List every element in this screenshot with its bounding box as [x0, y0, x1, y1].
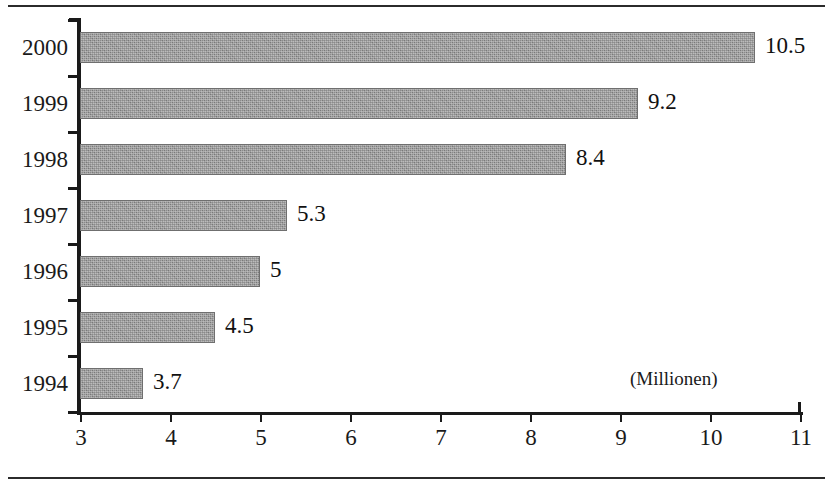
unit-annotation: (Millionen) [630, 368, 718, 390]
bar[interactable] [80, 32, 755, 63]
bar-chart-figure: 34567891011 10.59.28.45.354.53.7 (Millio… [0, 0, 833, 494]
x-axis-tick [440, 413, 442, 422]
bar[interactable] [80, 368, 143, 399]
category-label: 1997 [0, 202, 68, 230]
x-axis-tick-label: 6 [321, 424, 381, 452]
y-axis-tick [68, 19, 78, 22]
bar-row: 8.4 [80, 132, 800, 188]
bar-row: 5.3 [80, 188, 800, 244]
bar-value-label: 8.4 [576, 142, 605, 174]
bottom-rule [8, 477, 825, 479]
x-axis-tick [530, 413, 532, 422]
x-axis-tick [710, 413, 712, 422]
top-rule [8, 5, 825, 7]
bar-row: 9.2 [80, 76, 800, 132]
x-axis-tick-label: 10 [681, 424, 741, 452]
y-axis-tick [68, 243, 78, 246]
y-axis-tick [68, 355, 78, 358]
y-axis-tick [68, 411, 78, 414]
x-axis-tick [80, 413, 82, 422]
y-axis-tick [68, 131, 78, 134]
bar-value-label: 5.3 [297, 198, 326, 230]
bar[interactable] [80, 256, 260, 287]
bar-row: 10.5 [80, 20, 800, 76]
x-axis-tick [170, 413, 172, 422]
bar[interactable] [80, 144, 566, 175]
bar-value-label: 9.2 [648, 86, 677, 118]
plot-area: 34567891011 10.59.28.45.354.53.7 (Millio… [80, 20, 800, 412]
x-axis-tick-label: 9 [591, 424, 651, 452]
y-axis-tick [68, 75, 78, 78]
x-axis-tick-label: 8 [501, 424, 561, 452]
category-label: 1999 [0, 90, 68, 118]
category-label: 1998 [0, 146, 68, 174]
x-axis-tick-label: 4 [141, 424, 201, 452]
bar[interactable] [80, 312, 215, 343]
bar[interactable] [80, 88, 638, 119]
category-label: 2000 [0, 34, 68, 62]
bar-value-label: 4.5 [225, 310, 254, 342]
category-label: 1995 [0, 314, 68, 342]
bar-value-label: 5 [270, 254, 282, 286]
y-axis-tick [68, 299, 78, 302]
bar-row: 4.5 [80, 300, 800, 356]
x-axis-tick [620, 413, 622, 422]
category-label: 1996 [0, 258, 68, 286]
x-axis-tick-label: 11 [771, 424, 831, 452]
x-axis-tick [260, 413, 262, 422]
x-axis-tick [800, 413, 802, 422]
x-axis-tick-label: 3 [51, 424, 111, 452]
x-axis-tick [350, 413, 352, 422]
category-label: 1994 [0, 370, 68, 398]
x-axis-tick-label: 5 [231, 424, 291, 452]
bar-row: 5 [80, 244, 800, 300]
bar-value-label: 10.5 [765, 30, 805, 62]
x-axis-tick-label: 7 [411, 424, 471, 452]
y-axis-tick [68, 187, 78, 190]
bar-value-label: 3.7 [153, 366, 182, 398]
bar[interactable] [80, 200, 287, 231]
